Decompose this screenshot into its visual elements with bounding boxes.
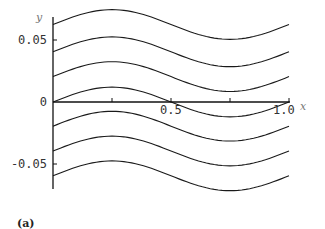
- y-tick-label: 0: [40, 95, 47, 109]
- x-tick-label: 1.0: [273, 103, 295, 117]
- series-line: [53, 62, 289, 92]
- panel-label: (a): [17, 217, 35, 229]
- y-tick-label: 0.05: [18, 33, 47, 47]
- series-line: [53, 10, 289, 40]
- y-ticks: 0.050-0.05: [11, 33, 57, 171]
- y-axis-label: y: [35, 11, 43, 24]
- x-axis-label: x: [300, 100, 307, 113]
- series-line: [53, 37, 289, 67]
- x-ticks: 0.51.0: [112, 98, 295, 117]
- series-line: [53, 136, 289, 166]
- y-tick-label: -0.05: [11, 157, 47, 171]
- chart: 0.51.0 0.050-0.05 y x (a): [0, 0, 325, 229]
- series-line: [53, 161, 289, 191]
- x-tick-label: 0.5: [160, 103, 182, 117]
